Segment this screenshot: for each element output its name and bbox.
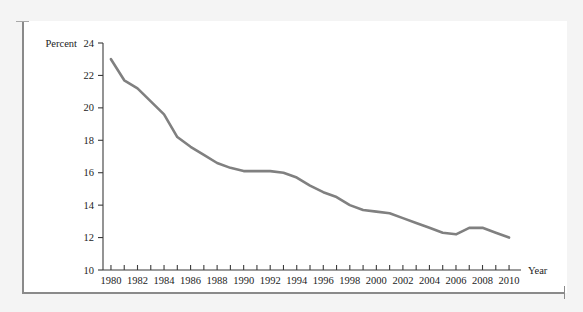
x-tick-label: 1996 [313, 275, 334, 286]
y-tick-label: 12 [84, 232, 95, 243]
x-tick-label: 2000 [366, 275, 387, 286]
x-tick-label: 1980 [100, 275, 121, 286]
y-axis-title: Percent [46, 38, 78, 49]
x-tick-label: 1982 [127, 275, 148, 286]
line-chart: 1012141618202224 Percent 198019821984198… [0, 0, 583, 312]
chart-svg: 1012141618202224 Percent 198019821984198… [0, 0, 583, 312]
x-tick-label: 2004 [419, 275, 441, 286]
y-axis-tick-labels: 1012141618202224 [84, 38, 95, 276]
x-tick-label: 1994 [286, 275, 308, 286]
y-axis: 1012141618202224 Percent [46, 38, 104, 276]
x-axis: 1980198219841986198819901992199419961998… [100, 265, 547, 286]
x-tick-label: 1990 [233, 275, 254, 286]
y-axis-ticks [98, 43, 103, 270]
x-tick-label: 1992 [260, 275, 281, 286]
y-tick-label: 10 [84, 265, 95, 276]
x-tick-label: 2006 [445, 275, 466, 286]
x-tick-label: 2008 [472, 275, 493, 286]
y-tick-label: 20 [84, 102, 95, 113]
data-series-line [111, 59, 509, 237]
x-tick-label: 1998 [339, 275, 360, 286]
y-tick-label: 14 [84, 200, 95, 211]
x-tick-label: 1988 [207, 275, 228, 286]
y-tick-label: 22 [84, 70, 95, 81]
x-tick-label: 1984 [154, 275, 176, 286]
x-tick-label: 2002 [392, 275, 413, 286]
page-background: 1012141618202224 Percent 198019821984198… [0, 0, 583, 312]
x-axis-tick-labels: 1980198219841986198819901992199419961998… [100, 275, 519, 286]
x-axis-ticks [111, 265, 509, 270]
y-tick-label: 16 [84, 167, 95, 178]
y-tick-label: 24 [84, 38, 95, 49]
x-axis-title: Year [528, 265, 548, 276]
x-tick-label: 2010 [499, 275, 520, 286]
x-tick-label: 1986 [180, 275, 201, 286]
y-tick-label: 18 [84, 135, 95, 146]
